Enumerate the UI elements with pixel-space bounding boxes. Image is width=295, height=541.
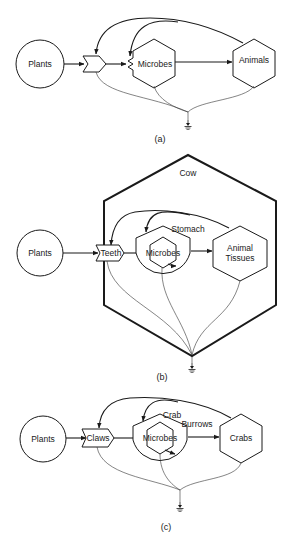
- animal-tissues-label-2: Tissues: [226, 253, 255, 263]
- microbes-label-b: Microbes: [146, 248, 180, 258]
- energy-flow-diagram: Plants Microbes Animals (a) Cow: [0, 0, 295, 541]
- animal-tissues-label-1: Animal: [227, 243, 253, 253]
- claws-gate: Claws: [82, 429, 114, 447]
- microbes-node-a: Microbes: [128, 39, 175, 88]
- claws-label: Claws: [86, 433, 109, 443]
- animals-node-a: Animals: [233, 39, 275, 88]
- microbes-label-c: Microbes: [143, 433, 177, 443]
- plants-label-c: Plants: [31, 434, 55, 444]
- panel-c: Plants Claws Crab Burrows Microbes Crabs: [20, 398, 262, 532]
- interaction-gate-a1: [83, 56, 106, 72]
- heat-sink-icon-b: [189, 363, 196, 373]
- microbes-label-a: Microbes: [138, 59, 172, 69]
- cow-label: Cow: [179, 168, 197, 178]
- heat-sink-icon-a: [185, 120, 192, 130]
- plants-label-a: Plants: [28, 59, 52, 69]
- teeth-label: Teeth: [101, 248, 122, 258]
- crabs-label: Crabs: [230, 433, 253, 443]
- caption-a: (a): [155, 134, 166, 144]
- animals-label-a: Animals: [239, 55, 269, 65]
- teeth-gate: Teeth: [96, 245, 124, 261]
- stomach-label: Stomach: [171, 224, 205, 234]
- plants-source-node-c: Plants: [20, 416, 66, 462]
- plants-label-b: Plants: [28, 248, 52, 258]
- panel-a: Plants Microbes Animals (a): [16, 18, 275, 144]
- plants-source-node-a: Plants: [16, 40, 64, 88]
- panel-b: Cow Plants Teeth Stomach Microbes Animal…: [17, 155, 276, 382]
- plants-source-node-b: Plants: [17, 230, 63, 276]
- crab-burrows-label-1: Crab: [163, 410, 182, 420]
- animal-tissues-node: Animal Tissues: [213, 226, 267, 281]
- caption-c: (c): [161, 522, 172, 532]
- crabs-node: Crabs: [220, 414, 262, 463]
- caption-b: (b): [157, 372, 168, 382]
- heat-sink-icon-c: [177, 502, 184, 512]
- crab-burrows-label-2: Burrows: [181, 419, 212, 429]
